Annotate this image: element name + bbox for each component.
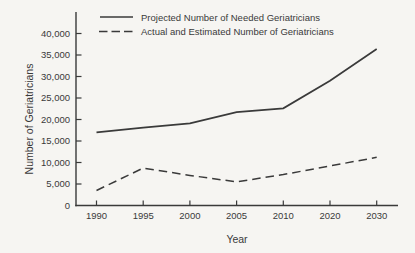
x-tick-label: 2005 bbox=[226, 210, 247, 221]
y-tick-label: 25,000 bbox=[41, 92, 70, 103]
geriatricians-figure: Projected Number of Needed Geriatricians… bbox=[0, 0, 415, 253]
x-tick-label: 2020 bbox=[319, 210, 340, 221]
y-tick-label: 40,000 bbox=[41, 28, 70, 39]
legend-label-actual: Actual and Estimated Number of Geriatric… bbox=[141, 26, 334, 37]
y-tick-label: 20,000 bbox=[41, 114, 70, 125]
y-tick-label: 35,000 bbox=[41, 49, 70, 60]
x-tick-label: 2030 bbox=[366, 210, 387, 221]
x-tick-label: 1995 bbox=[133, 210, 154, 221]
y-tick-label: 30,000 bbox=[41, 71, 70, 82]
y-axis-title: Number of Geriatricians bbox=[23, 64, 35, 175]
x-tick-label: 2010 bbox=[273, 210, 294, 221]
y-tick-label: 10,000 bbox=[41, 157, 70, 168]
y-tick-label: 15,000 bbox=[41, 135, 70, 146]
chart-canvas: Projected Number of Needed Geriatricians… bbox=[0, 0, 415, 253]
legend-label-projected: Projected Number of Needed Geriatricians bbox=[141, 12, 320, 23]
y-tick-label: 5,000 bbox=[46, 178, 70, 189]
x-tick-label: 1990 bbox=[86, 210, 107, 221]
y-tick-label: 0 bbox=[65, 200, 70, 211]
legend: Projected Number of Needed Geriatricians… bbox=[99, 12, 334, 38]
x-axis-ticks: 1990199520002005201020202030 bbox=[86, 201, 387, 222]
x-tick-label: 2000 bbox=[179, 210, 200, 221]
actual-estimated-line bbox=[97, 157, 377, 190]
series-lines bbox=[97, 49, 377, 190]
projected-needed-line bbox=[97, 49, 377, 132]
x-axis-title: Year bbox=[226, 233, 248, 245]
